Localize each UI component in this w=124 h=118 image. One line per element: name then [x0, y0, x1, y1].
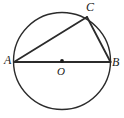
geometry-canvas: [0, 0, 124, 118]
segment-ac: [14, 17, 87, 62]
center-label-o: O: [57, 66, 65, 77]
vertex-label-b: B: [112, 56, 119, 68]
vertex-label-a: A: [4, 54, 11, 66]
vertex-label-c: C: [86, 1, 94, 13]
geometry-figure: A B C O: [0, 0, 124, 118]
segment-cb: [87, 17, 111, 62]
center-dot: [60, 59, 64, 63]
